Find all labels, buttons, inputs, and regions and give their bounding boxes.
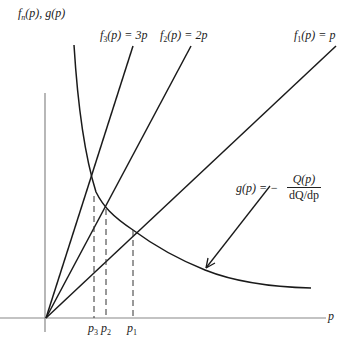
- label-f3-rest: (p) = 3p: [107, 28, 147, 42]
- label-f2-rest: (p) = 2p: [167, 28, 207, 42]
- tick-p1: p1: [127, 321, 137, 337]
- label-g-lhs: g(p) = −: [236, 181, 278, 196]
- x-axis-label: p: [328, 309, 334, 324]
- tick-p3: p3: [88, 321, 98, 337]
- y-axis-label-rest: (p), g(p): [25, 6, 65, 20]
- label-g-denominator: dQ/dp: [287, 188, 321, 203]
- tick-p2: p2: [101, 321, 111, 337]
- label-f1: f1(p) = p: [294, 28, 335, 44]
- label-g-numerator: Q(p): [287, 172, 321, 188]
- label-f3: f3(p) = 3p: [100, 28, 147, 44]
- tick-p3-sub: 3: [94, 328, 98, 337]
- y-axis-label: fn(p), g(p): [18, 6, 65, 22]
- label-f1-rest: (p) = p: [301, 28, 335, 42]
- label-g-fraction: Q(p) dQ/dp: [287, 172, 321, 203]
- curve-g: [74, 45, 311, 288]
- arrow-to-g: [206, 186, 270, 268]
- label-f2: f2(p) = 2p: [160, 28, 207, 44]
- line-f2: [46, 46, 191, 318]
- diagram: fn(p), g(p) f3(p) = 3p f2(p) = 2p f1(p) …: [0, 0, 353, 346]
- tick-p2-sub: 2: [107, 328, 111, 337]
- tick-p1-sub: 1: [133, 328, 137, 337]
